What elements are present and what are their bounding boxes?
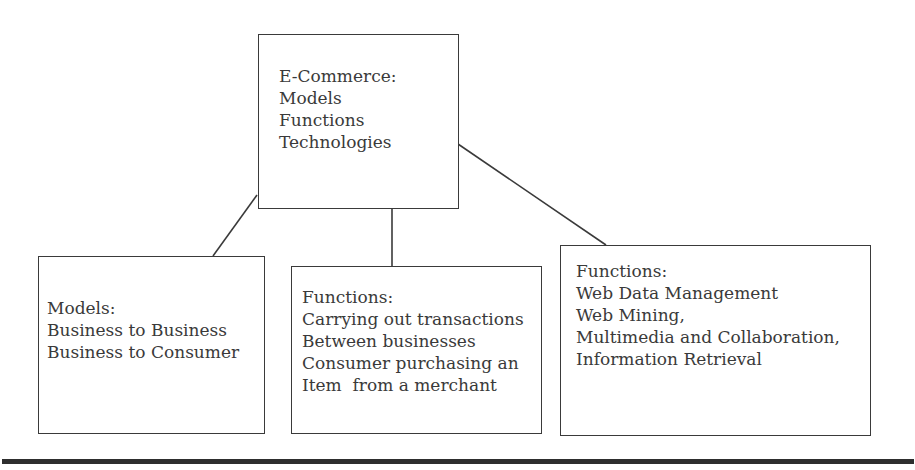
- models-item: Business to Consumer: [47, 341, 264, 363]
- child-node-functions-center: Functions: Carrying out transactions Bet…: [291, 266, 542, 434]
- root-title: E-Commerce:: [279, 65, 458, 87]
- functions-right-item: Web Data Management: [576, 282, 870, 304]
- functions-right-item: Information Retrieval: [576, 348, 870, 370]
- connector-root-to-models: [213, 195, 257, 256]
- child-node-functions-right: Functions: Web Data Management Web Minin…: [560, 245, 871, 436]
- root-item-functions: Functions: [279, 109, 458, 131]
- root-item-technologies: Technologies: [279, 131, 458, 153]
- functions-center-title: Functions:: [302, 286, 541, 308]
- functions-right-item: Multimedia and Collaboration,: [576, 326, 870, 348]
- connector-root-to-functions-right: [458, 144, 606, 245]
- functions-center-item: Item from a merchant: [302, 374, 541, 396]
- functions-right-item: Web Mining,: [576, 304, 870, 326]
- functions-right-title: Functions:: [576, 260, 870, 282]
- bottom-divider-rule: [2, 459, 914, 464]
- functions-center-item: Between businesses: [302, 330, 541, 352]
- root-item-models: Models: [279, 87, 458, 109]
- models-title: Models:: [47, 297, 264, 319]
- functions-center-item: Consumer purchasing an: [302, 352, 541, 374]
- child-node-models: Models: Business to Business Business to…: [38, 256, 265, 434]
- models-item: Business to Business: [47, 319, 264, 341]
- root-node-ecommerce: E-Commerce: Models Functions Technologie…: [258, 34, 459, 209]
- functions-center-item: Carrying out transactions: [302, 308, 541, 330]
